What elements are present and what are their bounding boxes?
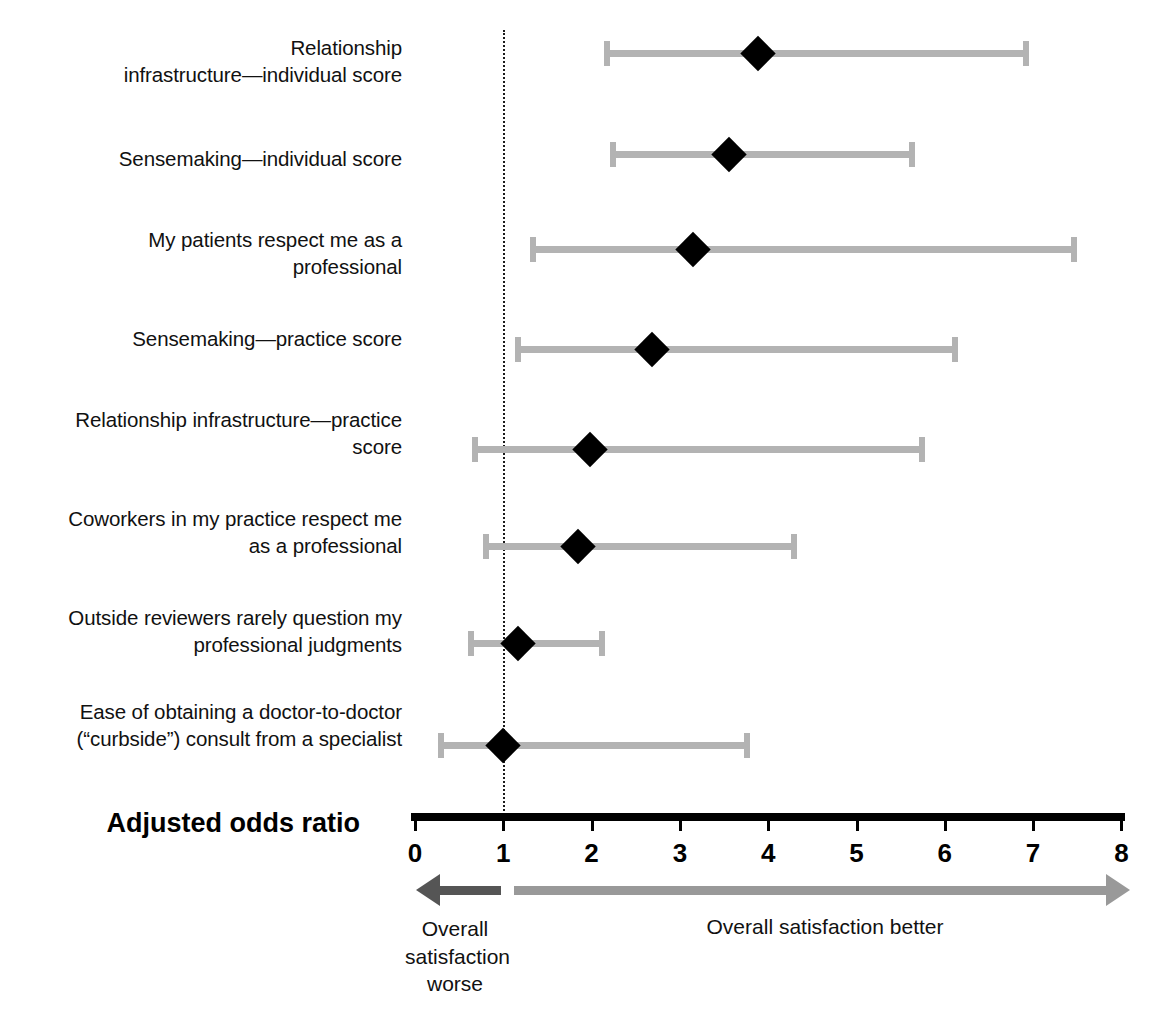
interval-upper-cap: [791, 534, 797, 559]
interval-lower-cap: [468, 631, 474, 656]
interval-upper-cap: [952, 337, 958, 362]
axis-tick-label-3: 3: [660, 838, 700, 869]
axis-tick-label-2: 2: [572, 838, 612, 869]
point-estimate-marker: [561, 529, 596, 564]
interval-lower-cap: [438, 733, 444, 758]
confidence-interval-bar: [484, 543, 796, 550]
axis-tick-1: [502, 818, 505, 831]
confidence-interval-bar: [531, 246, 1077, 253]
axis-tick-5: [856, 818, 859, 831]
confidence-interval-bar: [469, 640, 604, 647]
point-estimate-marker: [634, 332, 669, 367]
plot-area: [0, 0, 1150, 800]
interval-row: [0, 332, 1150, 366]
axis-tick-label-8: 8: [1101, 838, 1141, 869]
interval-row: [0, 137, 1150, 171]
point-estimate-marker: [712, 137, 747, 172]
point-estimate-marker: [501, 626, 536, 661]
point-estimate-marker: [572, 432, 607, 467]
worse-direction-caption: Overall satisfaction worse: [405, 915, 505, 998]
interval-upper-cap: [1023, 41, 1029, 66]
better-direction-caption: Overall satisfaction better: [545, 913, 1105, 941]
axis-tick-label-4: 4: [748, 838, 788, 869]
right-arrow-head-icon: [1106, 874, 1130, 906]
axis-tick-7: [1032, 818, 1035, 831]
confidence-interval-bar: [473, 446, 923, 453]
interval-lower-cap: [515, 337, 521, 362]
interval-row: [0, 728, 1150, 762]
axis-tick-6: [944, 818, 947, 831]
interval-upper-cap: [744, 733, 750, 758]
confidence-interval-bar: [611, 151, 914, 158]
interval-row: [0, 626, 1150, 660]
confidence-interval-bar: [516, 346, 958, 353]
left-arrow-shaft: [440, 886, 501, 895]
right-arrow-shaft: [514, 886, 1106, 895]
forest-plot-figure: Relationship infrastructure—individual s…: [0, 0, 1150, 1034]
axis-tick-4: [767, 818, 770, 831]
axis-tick-8: [1120, 818, 1123, 831]
point-estimate-marker: [675, 232, 710, 267]
axis-tick-label-7: 7: [1013, 838, 1053, 869]
interval-lower-cap: [530, 237, 536, 262]
axis-tick-label-6: 6: [925, 838, 965, 869]
axis-tick-0: [414, 818, 417, 831]
axis-tick-label-0: 0: [395, 838, 435, 869]
axis-tick-label-1: 1: [483, 838, 523, 869]
interval-row: [0, 232, 1150, 266]
confidence-interval-bar: [605, 50, 1028, 57]
interval-upper-cap: [1071, 237, 1077, 262]
point-estimate-marker: [740, 36, 775, 71]
interval-lower-cap: [610, 142, 616, 167]
interval-row: [0, 529, 1150, 563]
left-arrow-head-icon: [416, 874, 440, 906]
interval-upper-cap: [909, 142, 915, 167]
interval-lower-cap: [483, 534, 489, 559]
axis-tick-2: [591, 818, 594, 831]
interval-row: [0, 36, 1150, 70]
interval-row: [0, 432, 1150, 466]
point-estimate-marker: [486, 728, 521, 763]
axis-title: Adjusted odds ratio: [60, 808, 360, 839]
interval-upper-cap: [919, 437, 925, 462]
axis-tick-3: [679, 818, 682, 831]
interval-lower-cap: [472, 437, 478, 462]
interval-upper-cap: [599, 631, 605, 656]
interval-lower-cap: [604, 41, 610, 66]
axis-tick-label-5: 5: [837, 838, 877, 869]
